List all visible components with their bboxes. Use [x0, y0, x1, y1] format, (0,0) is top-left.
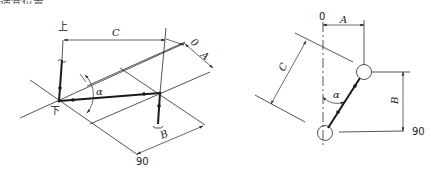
joint-dot — [142, 92, 146, 96]
parallel-line-lower — [255, 95, 305, 122]
decline-line-1 — [30, 80, 138, 155]
joint-dot — [71, 98, 75, 102]
joint-dot — [353, 84, 357, 88]
dim-line-c — [271, 41, 306, 104]
label-dim-a: A — [198, 48, 211, 62]
diagram-canvas: 上 下 C A 0 α B 90 0 A — [0, 0, 434, 175]
joint-dot — [336, 110, 340, 114]
left-linkage-diagram: 上 下 C A 0 α B 90 — [20, 21, 213, 167]
label-alpha: α — [96, 86, 103, 97]
parallel-line-upper — [295, 33, 353, 62]
label-down: 下 — [50, 105, 60, 116]
extension-line-b-bottom — [339, 131, 404, 132]
vertical-reference — [160, 28, 166, 93]
label-90: 90 — [136, 156, 149, 167]
lower-link — [158, 93, 160, 124]
label-dim-c: C — [112, 27, 120, 38]
label-alpha: α — [333, 89, 340, 100]
label-dim-a: A — [339, 14, 347, 25]
joint-dot — [58, 86, 62, 90]
joint-dot — [157, 104, 161, 108]
label-dim-c: C — [276, 61, 290, 73]
decline-line-2 — [120, 68, 205, 125]
label-dim-b: B — [158, 128, 170, 141]
dim-line-b — [137, 126, 203, 154]
upper-link — [59, 60, 62, 101]
label-dim-b: B — [389, 97, 400, 105]
break-mark — [153, 126, 163, 128]
label-90: 90 — [412, 126, 425, 137]
upper-link-thin — [62, 40, 63, 60]
label-zero: 0 — [189, 36, 201, 49]
angle-arc-alpha — [85, 75, 93, 113]
incline-line-3 — [87, 42, 185, 86]
dim-extension — [166, 39, 184, 45]
upper-joint-circle — [357, 65, 372, 80]
label-zero: 0 — [319, 11, 325, 22]
right-linkage-diagram: 0 A C α B 90 — [255, 11, 425, 148]
label-up: 上 — [58, 21, 68, 32]
lower-joint-circle — [318, 126, 333, 141]
